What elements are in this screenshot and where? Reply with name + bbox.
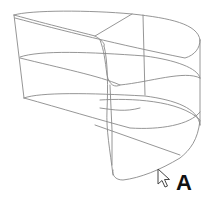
- lower-diagonal: [95, 125, 180, 155]
- lower-inner-curve: [100, 108, 140, 110]
- mid-curve-1b: [20, 58, 200, 85]
- mouse-pointer-icon: [157, 168, 173, 190]
- profile-curve-1: [14, 15, 105, 46]
- profile-curve-1b: [15, 18, 200, 58]
- wireframe-surface: [0, 0, 208, 198]
- top-edge-curve: [14, 11, 200, 40]
- point-label: A: [176, 172, 192, 194]
- inner-vertical-line-1: [143, 15, 145, 95]
- mid-curve-1: [20, 52, 200, 78]
- lower-curve: [100, 99, 200, 180]
- top-diagonal: [95, 14, 132, 36]
